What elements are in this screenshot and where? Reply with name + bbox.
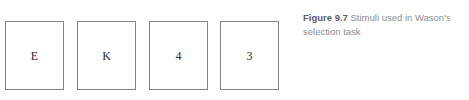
figure-container: E K 4 3 Figure 9.7 Stimuli used in Wason… [0,0,469,100]
card-symbol-3: 3 [247,50,253,62]
card-e: E [5,21,64,90]
card-symbol-k: K [102,50,111,62]
figure-caption-label: Figure 9.7 [303,12,348,23]
card-symbol-e: E [31,50,38,62]
card-3: 3 [220,21,279,90]
card-k: K [77,21,136,90]
card-4: 4 [149,21,208,90]
figure-caption: Figure 9.7 Stimuli used in Wason's selec… [303,11,463,38]
card-symbol-4: 4 [176,50,182,62]
